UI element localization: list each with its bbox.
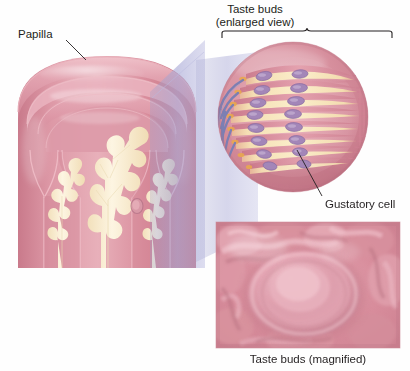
label-gustatory-cell: Gustatory cell — [325, 198, 395, 211]
label-taste-buds-line2: (enlarged view) — [216, 16, 295, 29]
anatomy-artwork — [0, 0, 410, 371]
illustration-canvas: Papilla Taste buds (enlarged view) Gusta… — [0, 0, 410, 371]
papilla-leader-line — [66, 40, 86, 60]
enlarged-view-bracket — [222, 28, 392, 38]
label-taste-buds-line1: Taste buds — [216, 3, 295, 16]
label-papilla: Papilla — [18, 28, 53, 41]
taste-buds-photo — [210, 222, 408, 356]
taste-buds-enlarged-view — [216, 42, 373, 192]
label-taste-buds-magnified: Taste buds (magnified) — [250, 353, 366, 366]
label-taste-buds-enlarged-view: Taste buds (enlarged view) — [216, 3, 295, 29]
papilla-cross-section — [18, 40, 205, 268]
